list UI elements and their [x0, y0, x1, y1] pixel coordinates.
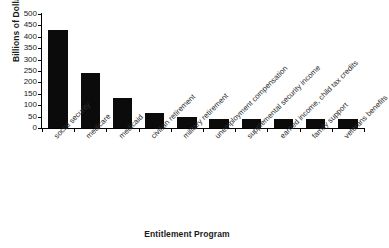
y-axis-tick-mark	[38, 71, 42, 72]
y-axis-tick-mark	[38, 37, 42, 38]
x-axis-tick-mark	[267, 128, 268, 132]
x-axis-tick-mark	[106, 128, 107, 132]
x-axis-tick-mark	[139, 128, 140, 132]
x-axis-tick-mark	[74, 128, 75, 132]
x-axis-tick-mark	[300, 128, 301, 132]
x-axis-tick-mark	[235, 128, 236, 132]
y-axis-tick-label: 450	[7, 20, 37, 29]
x-axis-tick-mark	[332, 128, 333, 132]
x-axis-tick-mark	[42, 128, 43, 132]
y-axis-tick-mark	[38, 117, 42, 118]
y-axis-tick-mark	[38, 60, 42, 61]
x-axis-tick-mark	[171, 128, 172, 132]
y-axis-tick-mark	[38, 105, 42, 106]
y-axis-tick-label: 350	[7, 43, 37, 52]
y-axis-tick-label: 400	[7, 32, 37, 41]
y-axis-tick-label: 100	[7, 100, 37, 109]
x-axis-tick-mark	[203, 128, 204, 132]
y-axis-tick-label: 300	[7, 55, 37, 64]
y-axis-tick-label: 50	[7, 112, 37, 121]
y-axis-tick-label: 150	[7, 89, 37, 98]
y-axis-tick-label: 250	[7, 66, 37, 75]
y-axis-tick-label: 500	[7, 9, 37, 18]
y-axis-tick-label: 200	[7, 77, 37, 86]
x-axis-tick-mark	[364, 128, 365, 132]
y-axis-tick-mark	[38, 48, 42, 49]
y-axis-tick-mark	[38, 14, 42, 15]
y-axis-tick-label: 0	[7, 123, 37, 132]
y-axis-tick-mark	[38, 94, 42, 95]
bar[interactable]	[48, 30, 67, 128]
x-axis-title: Entitlement Program	[0, 229, 374, 239]
y-axis-tick-mark	[38, 25, 42, 26]
y-axis-tick-mark	[38, 82, 42, 83]
